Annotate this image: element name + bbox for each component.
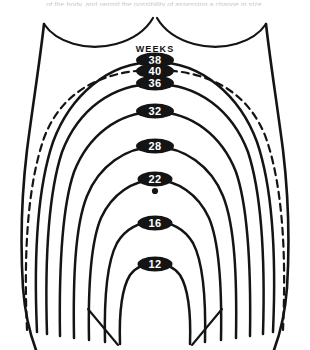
week-badge-12: 12 [138,257,173,272]
week-badge-28: 28 [136,138,174,153]
breast-left-underline [44,18,153,47]
week-badge-36-label: 36 [148,77,161,89]
breast-right-underline [157,18,266,47]
week-badge-32: 32 [136,103,174,118]
groin-line-left [88,309,118,345]
fundal-curve-12 [120,263,190,344]
week-badge-16: 16 [138,216,173,231]
week-badge-group: 38 40 36 32 28 22 [136,52,174,271]
week-badge-40-label: 40 [148,65,161,77]
week-badge-32-label: 32 [148,105,161,117]
groin-group [88,309,222,345]
fundal-curve-38 [36,62,274,332]
week-badge-28-label: 28 [148,140,161,152]
fundal-curve-36 [46,84,263,334]
torso-illustration: WEEKS 38 40 36 32 28 [0,0,310,350]
week-badge-36: 36 [136,75,174,90]
fundal-height-diagram: of the body, and permit the possibility … [0,0,310,350]
umbilicus-marker [152,188,158,194]
chest-group [44,18,266,47]
page-caption-fragment: of the body, and permit the possibility … [0,0,310,6]
groin-line-right [192,309,222,345]
week-badge-22-label: 22 [148,173,161,185]
week-badge-16-label: 16 [148,217,161,229]
week-badge-12-label: 12 [148,258,161,270]
week-badge-22: 22 [138,172,173,187]
